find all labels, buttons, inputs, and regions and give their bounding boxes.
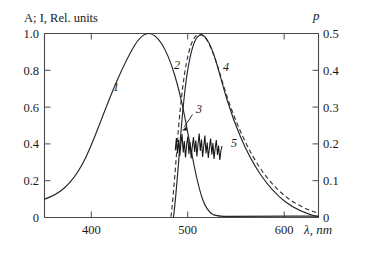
ytick-label-left-4: 0.8	[23, 64, 39, 78]
curve-label-5: 5	[231, 136, 237, 150]
figure-container: 1.0 0.8 0.6 0.4 0.2 0 0.5 0.4 0.3 0.2 0.…	[0, 0, 369, 263]
ytick-label-left-1: 0.2	[23, 174, 39, 188]
x-axis-title: λ, nm	[303, 222, 332, 237]
curve-label-3: 3	[195, 102, 202, 116]
ytick-label-left-0: 0	[33, 211, 39, 225]
left-axis-tick-labels: 1.0 0.8 0.6 0.4 0.2 0	[23, 27, 39, 225]
left-axis-ticks	[45, 34, 51, 218]
xtick-label-600: 600	[275, 223, 294, 237]
curve-5-noise-trace	[175, 134, 222, 161]
ytick-label-left-2: 0.4	[23, 137, 39, 151]
ytick-label-left-5: 1.0	[23, 27, 39, 41]
xtick-label-500: 500	[178, 223, 197, 237]
xtick-label-400: 400	[82, 223, 101, 237]
ytick-label-right-2: 0.2	[323, 137, 339, 151]
y-axis-right-title: p	[312, 8, 320, 23]
curve-label-4: 4	[223, 60, 229, 74]
curve-4-emission-dashed	[171, 34, 319, 217]
right-axis-ticks	[313, 34, 319, 218]
chart-figure: 1.0 0.8 0.6 0.4 0.2 0 0.5 0.4 0.3 0.2 0.…	[0, 0, 369, 263]
curve-label-2: 2	[174, 58, 180, 72]
bottom-axis-tick-labels: 400 500 600	[82, 223, 294, 237]
ytick-label-right-5: 0.5	[323, 27, 339, 41]
top-axis-ticks	[91, 34, 284, 40]
ytick-label-right-4: 0.4	[323, 64, 339, 78]
curve-label-1: 1	[113, 80, 119, 94]
curve-2-emission-solid	[174, 35, 319, 217]
ytick-label-left-3: 0.6	[23, 101, 39, 115]
y-axis-left-title: A; I, Rel. units	[24, 11, 98, 25]
right-axis-tick-labels: 0.5 0.4 0.3 0.2 0.1 0	[323, 27, 339, 225]
ytick-label-right-3: 0.3	[323, 101, 339, 115]
ytick-label-right-1: 0.1	[323, 174, 339, 188]
